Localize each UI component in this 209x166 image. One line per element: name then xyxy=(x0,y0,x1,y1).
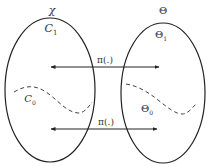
right-set: Θ Θ1 Θ0 xyxy=(121,5,205,163)
right-lower-region-label: Θ0 xyxy=(141,103,153,116)
lower-mapping-arrow: π(.) xyxy=(51,117,157,129)
left-lower-region-label: C0 xyxy=(24,93,36,106)
upper-mapping-arrow: π(.) xyxy=(51,55,159,67)
left-upper-region-label: C1 xyxy=(45,22,58,37)
left-set: χ C1 C0 xyxy=(5,4,95,162)
set-mapping-diagram: χ C1 C0 Θ Θ1 Θ0 π(.) π(.) xyxy=(0,0,209,166)
right-set-ellipse xyxy=(121,23,205,163)
right-set-label: Θ xyxy=(159,5,167,16)
right-upper-region-label: Θ1 xyxy=(155,29,167,42)
lower-arrow-label: π(.) xyxy=(98,117,114,127)
upper-arrow-label: π(.) xyxy=(97,55,113,65)
left-set-label: χ xyxy=(48,4,57,17)
right-boundary-dashed xyxy=(126,84,196,114)
left-set-ellipse xyxy=(5,18,95,162)
